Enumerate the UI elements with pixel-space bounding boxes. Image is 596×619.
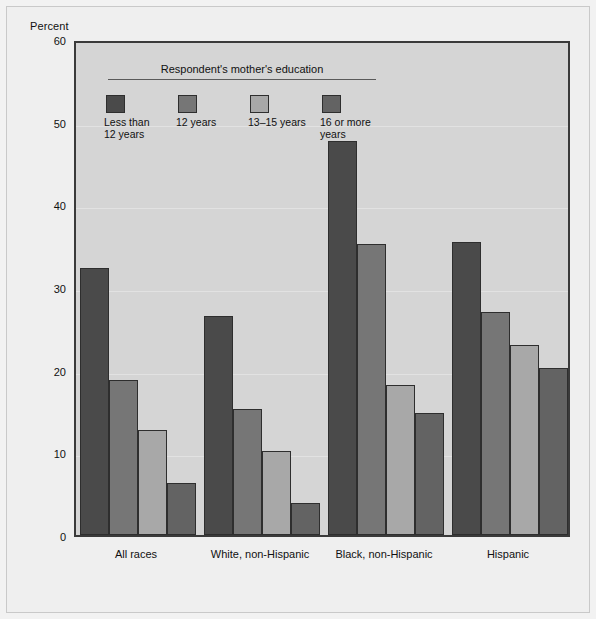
bar — [328, 141, 357, 535]
bar — [262, 451, 291, 535]
y-axis-tick-label: 20 — [26, 366, 66, 378]
y-axis-ticks: 0102030405060 — [0, 41, 70, 537]
legend-label: 12 years — [176, 117, 242, 129]
legend-swatch — [250, 95, 269, 113]
gridline — [76, 291, 568, 292]
y-axis-tick-label: 10 — [26, 448, 66, 460]
y-axis-tick-label: 40 — [26, 200, 66, 212]
y-axis-tick-label: 0 — [26, 531, 66, 543]
legend-swatch — [322, 95, 341, 113]
y-axis-label: Percent — [30, 20, 69, 32]
x-axis-group-label: All races — [115, 548, 157, 560]
bar — [481, 312, 510, 535]
figure-container: Percent 0102030405060 Respondent's mothe… — [0, 0, 596, 619]
bar — [204, 316, 233, 535]
legend-entry: 12 years — [176, 95, 242, 129]
legend-swatch — [178, 95, 197, 113]
bar — [415, 413, 444, 535]
legend-divider — [108, 79, 376, 80]
legend-swatch — [106, 95, 125, 113]
legend-title: Respondent's mother's education — [108, 63, 376, 75]
bar — [452, 242, 481, 535]
gridline — [76, 208, 568, 209]
bar — [510, 345, 539, 535]
legend: Respondent's mother's education Less tha… — [104, 63, 404, 80]
bar — [357, 244, 386, 535]
bar — [138, 430, 167, 535]
y-axis-tick-label: 30 — [26, 283, 66, 295]
legend-label: 16 or moreyears — [320, 117, 386, 140]
legend-entry: Less than12 years — [104, 95, 170, 140]
legend-entry: 13–15 years — [248, 95, 314, 129]
bar — [80, 268, 109, 535]
bar — [109, 380, 138, 535]
x-axis-group-label: White, non-Hispanic — [211, 548, 309, 560]
x-axis-group-label: Hispanic — [487, 548, 529, 560]
bar — [539, 368, 568, 535]
plot-area: Respondent's mother's education Less tha… — [74, 41, 570, 537]
y-axis-tick-label: 60 — [26, 35, 66, 47]
y-axis-tick-label: 50 — [26, 118, 66, 130]
bar — [386, 385, 415, 535]
bar — [291, 503, 320, 535]
legend-label: 13–15 years — [248, 117, 314, 129]
x-axis-group-label: Black, non-Hispanic — [335, 548, 432, 560]
legend-label: Less than12 years — [104, 117, 170, 140]
bar — [233, 409, 262, 535]
legend-entry: 16 or moreyears — [320, 95, 386, 140]
bar — [167, 483, 196, 535]
